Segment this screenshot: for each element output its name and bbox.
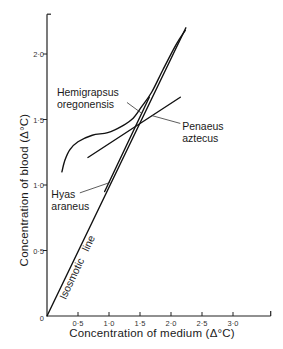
osmoregulation-chart: 00·51·01·52·00·51·01·52·02·53·0 Hemigrap… [0, 0, 283, 349]
hemigrapsus-pointer-line [127, 102, 141, 112]
x-axis-title: Concentration of medium (Δ°C) [69, 327, 235, 339]
annotation-layer: HemigrapsusoregonensisPenaeusaztecusHyas… [51, 86, 223, 301]
series-hyas-araneus [105, 97, 150, 191]
y-tick-label: 0·5 [33, 247, 44, 256]
hyas-label-line: araneus [51, 200, 89, 212]
hyas-pointer-line [80, 182, 110, 192]
penaeus-label-line: aztecus [182, 132, 218, 144]
hemigrapsus-label-line: oregonensis [57, 98, 114, 110]
penaeus-label: Penaeusaztecus [182, 120, 223, 144]
y-tick-label: 0 [40, 314, 44, 323]
penaeus-pointer-line [152, 116, 181, 124]
hyas-label-line: Hyas [51, 188, 75, 200]
hemigrapsus-label-line: Hemigrapsus [57, 86, 119, 98]
y-axis-title: Concentration of blood (Δ°C) [18, 114, 30, 267]
y-tick-label: 1·5 [33, 116, 44, 125]
y-tick-label: 1·0 [33, 181, 44, 190]
isosmotic-label: Isosmotic line [57, 233, 98, 301]
penaeus-label-line: Penaeus [182, 120, 223, 132]
hemigrapsus-label: Hemigrapsusoregonensis [57, 86, 119, 110]
y-tick-label: 2·0 [33, 50, 44, 59]
